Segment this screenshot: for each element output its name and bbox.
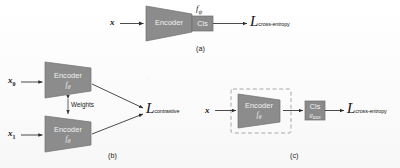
- panel-a-caption: (a): [196, 45, 205, 52]
- panel-b-input-1-label: x1: [8, 129, 16, 140]
- panel-c-input-label: x: [205, 106, 210, 115]
- panel-b-encoder-top-shape: [45, 62, 91, 98]
- panel-b-encoder-top-param-label: fθ: [45, 82, 91, 90]
- figure-canvas: x Encoder Cls fψ Lcross-entropy (a) x0 x…: [0, 0, 400, 168]
- panel-c-caption: (c): [290, 152, 298, 159]
- panel-b-encoder-bottom-label: Encoder: [45, 126, 91, 133]
- panel-c-encoder-shape: [238, 94, 280, 128]
- panel-b-encoder-bottom-shape: [45, 116, 91, 152]
- panel-b-input-0-label: x0: [8, 76, 16, 87]
- panel-b-weights-label: Weights: [71, 102, 94, 108]
- panel-a-classifier-label: Cls: [192, 20, 213, 27]
- panel-a-loss-label: Lcross-entropy: [250, 13, 290, 29]
- panel-b-encoder-bottom-param-label: fθ: [45, 136, 91, 144]
- panel-b-caption: (b): [108, 152, 117, 159]
- panel-c-loss-label: Lcross-entropy: [347, 100, 387, 116]
- panel-c-classifier-label: Cls: [305, 103, 325, 110]
- panel-c-classifier-param-label: gaux: [305, 112, 325, 121]
- panel-b-loss-label: Lcontrastive: [146, 100, 179, 116]
- panel-a-input-label: x: [110, 18, 115, 27]
- panel-a-encoder-label: Encoder: [146, 19, 192, 26]
- panel-b-output-bottom-arrow: [92, 114, 143, 134]
- panel-c-encoder-label: Encoder: [238, 102, 280, 109]
- panel-b-encoder-top-label: Encoder: [45, 72, 91, 79]
- panel-a-classifier-param-label: fψ: [196, 4, 202, 15]
- panel-b-output-top-arrow: [92, 84, 143, 108]
- panel-c-encoder-param-label: fθ: [238, 112, 280, 120]
